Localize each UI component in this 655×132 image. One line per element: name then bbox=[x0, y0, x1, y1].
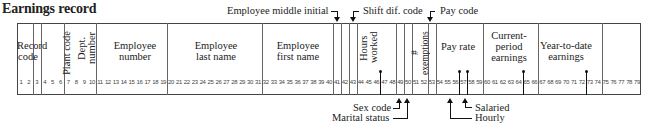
column-number: 61 bbox=[491, 79, 499, 85]
annotation-employee-middle-initial: Employee middle initial bbox=[227, 5, 328, 16]
decimal-point-marker bbox=[467, 71, 468, 95]
label-line: Employee bbox=[100, 40, 170, 51]
column-number: 29 bbox=[238, 79, 246, 85]
column-number: 5 bbox=[49, 79, 57, 85]
field-record-code: Record code bbox=[17, 40, 39, 62]
leader-line bbox=[465, 107, 472, 108]
field-exemptions: # exemptions bbox=[410, 28, 430, 78]
column-number: 1 bbox=[17, 79, 25, 85]
column-numbers: 1234567891011121314151617181920212223242… bbox=[0, 79, 655, 87]
column-number: 39 bbox=[317, 79, 325, 85]
decimal-point-dot-icon bbox=[466, 70, 469, 73]
column-number: 69 bbox=[554, 79, 562, 85]
column-number: 15 bbox=[128, 79, 136, 85]
field-employee-last-name: Employee last name bbox=[170, 40, 262, 62]
column-number: 37 bbox=[301, 79, 309, 85]
leader-line bbox=[430, 11, 435, 12]
label-line: period bbox=[482, 41, 536, 52]
arrow-down-icon bbox=[427, 17, 433, 22]
decimal-point-dot-icon bbox=[585, 70, 588, 73]
column-number: 25 bbox=[207, 79, 215, 85]
column-number: 48 bbox=[388, 79, 396, 85]
column-number: 20 bbox=[167, 79, 175, 85]
column-number: 51 bbox=[412, 79, 420, 85]
leader-line bbox=[407, 102, 408, 119]
column-number: 9 bbox=[80, 79, 88, 85]
column-number: 68 bbox=[546, 79, 554, 85]
column-number: 19 bbox=[159, 79, 167, 85]
label-line: number bbox=[100, 51, 170, 62]
column-number: 43 bbox=[349, 79, 357, 85]
column-number: 12 bbox=[104, 79, 112, 85]
column-number: 38 bbox=[309, 79, 317, 85]
field-year-to-date-earnings: Year-to-date earnings bbox=[536, 40, 596, 62]
column-number: 66 bbox=[530, 79, 538, 85]
decimal-point-marker bbox=[586, 71, 587, 95]
label-line: earnings bbox=[482, 52, 536, 63]
column-number: 30 bbox=[246, 79, 254, 85]
arrow-down-icon bbox=[350, 17, 356, 22]
decimal-point-dot-icon bbox=[522, 70, 525, 73]
column-number: 33 bbox=[270, 79, 278, 85]
label-line: Current- bbox=[482, 30, 536, 41]
column-number: 76 bbox=[609, 79, 617, 85]
column-number: 59 bbox=[475, 79, 483, 85]
decimal-point-marker bbox=[523, 71, 524, 95]
column-number: 6 bbox=[56, 79, 64, 85]
label-line: first name bbox=[262, 51, 334, 62]
leader-line bbox=[393, 118, 407, 119]
column-number: 26 bbox=[214, 79, 222, 85]
column-number: 21 bbox=[175, 79, 183, 85]
column-number: 71 bbox=[570, 79, 578, 85]
annotation-marital-status: Marital status bbox=[332, 112, 389, 123]
field-plant-code: Plant code bbox=[62, 30, 72, 76]
column-number: 67 bbox=[538, 79, 546, 85]
leader-line bbox=[399, 102, 400, 109]
column-number: 58 bbox=[467, 79, 475, 85]
column-number: 18 bbox=[151, 79, 159, 85]
label-line: worked bbox=[368, 32, 379, 64]
annotation-hourly: Hourly bbox=[475, 112, 505, 123]
column-number: 16 bbox=[135, 79, 143, 85]
column-number: 34 bbox=[278, 79, 286, 85]
column-number: 49 bbox=[396, 79, 404, 85]
column-number: 45 bbox=[365, 79, 373, 85]
leader-line bbox=[450, 102, 451, 119]
column-number: 8 bbox=[72, 79, 80, 85]
column-number: 22 bbox=[183, 79, 191, 85]
column-number: 31 bbox=[254, 79, 262, 85]
column-number: 75 bbox=[602, 79, 610, 85]
column-number: 24 bbox=[199, 79, 207, 85]
leader-line bbox=[393, 108, 399, 109]
column-number: 3 bbox=[33, 79, 41, 85]
column-number: 17 bbox=[143, 79, 151, 85]
label-line: Record bbox=[17, 40, 39, 51]
column-number: 41 bbox=[333, 79, 341, 85]
column-number: 23 bbox=[191, 79, 199, 85]
column-number: 60 bbox=[483, 79, 491, 85]
decimal-point-dot-icon bbox=[458, 70, 461, 73]
column-number: 27 bbox=[222, 79, 230, 85]
label-line: Year-to-date bbox=[536, 40, 596, 51]
page-title: Earnings record bbox=[2, 1, 96, 17]
column-number: 32 bbox=[262, 79, 270, 85]
column-number: 74 bbox=[594, 79, 602, 85]
field-hours-worked: Hours worked bbox=[359, 33, 379, 63]
column-number: 70 bbox=[562, 79, 570, 85]
annotation-salaried: Salaried bbox=[475, 102, 509, 113]
column-number: 44 bbox=[357, 79, 365, 85]
column-number: 7 bbox=[64, 79, 72, 85]
field-pay-rate: Pay rate bbox=[435, 41, 481, 52]
arrow-down-icon bbox=[334, 17, 340, 22]
annotation-shift-dif-code: Shift dif. code bbox=[363, 5, 423, 16]
column-number: 53 bbox=[428, 79, 436, 85]
column-number: 35 bbox=[286, 79, 294, 85]
leader-line bbox=[450, 118, 472, 119]
leader-line bbox=[353, 11, 359, 12]
label-line: Employee bbox=[170, 40, 262, 51]
column-number: 36 bbox=[293, 79, 301, 85]
column-number: 13 bbox=[112, 79, 120, 85]
decimal-point-dot-icon bbox=[379, 70, 382, 73]
column-number: 78 bbox=[625, 79, 633, 85]
column-number: 77 bbox=[617, 79, 625, 85]
